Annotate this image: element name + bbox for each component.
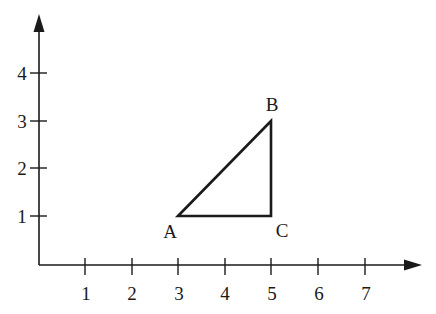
x-tick-label: 1 bbox=[81, 283, 91, 304]
coordinate-plane: 1 2 3 4 5 6 7 1 2 3 4 A B C bbox=[0, 0, 436, 314]
point-label-a: A bbox=[163, 221, 177, 242]
x-tick-label: 2 bbox=[127, 283, 137, 304]
y-tick-labels: 1 2 3 4 bbox=[17, 63, 27, 227]
y-tick-label: 2 bbox=[17, 158, 27, 179]
y-tick-label: 3 bbox=[17, 111, 27, 132]
x-tick-label: 3 bbox=[174, 283, 184, 304]
x-tick-label: 4 bbox=[220, 283, 230, 304]
x-tick-label: 5 bbox=[267, 283, 277, 304]
y-axis-arrow-icon bbox=[34, 14, 45, 32]
x-axis-arrow-icon bbox=[404, 260, 422, 271]
y-tick-label: 1 bbox=[17, 206, 27, 227]
x-tick-label: 7 bbox=[361, 283, 371, 304]
point-label-c: C bbox=[276, 220, 289, 241]
x-tick-labels: 1 2 3 4 5 6 7 bbox=[81, 283, 371, 304]
x-ticks bbox=[85, 258, 365, 275]
point-label-b: B bbox=[266, 94, 279, 115]
triangle-abc bbox=[178, 121, 271, 216]
x-tick-label: 6 bbox=[314, 283, 324, 304]
y-tick-label: 4 bbox=[17, 63, 27, 84]
